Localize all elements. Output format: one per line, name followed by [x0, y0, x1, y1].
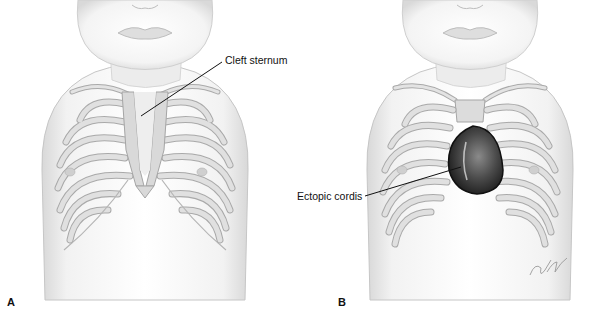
illustration-cleft-sternum [0, 0, 295, 315]
nipple-right [529, 166, 539, 174]
panel-letter-b: B [338, 296, 346, 308]
nipple-left [397, 166, 407, 174]
nipple-right [197, 168, 207, 176]
annotation-ectopic-cordis: Ectopic cordis [297, 190, 362, 202]
panel-letter-a: A [7, 296, 15, 308]
annotation-cleft-sternum: Cleft sternum [225, 54, 287, 66]
illustration-ectopic-cordis [295, 0, 590, 315]
nipple-left [65, 168, 75, 176]
manubrium [455, 100, 485, 122]
panel-a-cleft-sternum: Cleft sternum A [0, 0, 295, 315]
panel-b-ectopic-cordis: Ectopic cordis B [295, 0, 590, 315]
